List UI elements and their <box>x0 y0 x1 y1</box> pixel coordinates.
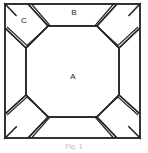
figure-caption: Fig. 1 <box>0 143 148 150</box>
region-label-c: C <box>21 16 27 25</box>
region-label-a: A <box>70 72 76 81</box>
folding-pattern-diagram: A B C <box>0 0 148 153</box>
region-label-b: B <box>71 8 76 17</box>
figure-container: A B C Fig. 1 <box>0 0 148 153</box>
